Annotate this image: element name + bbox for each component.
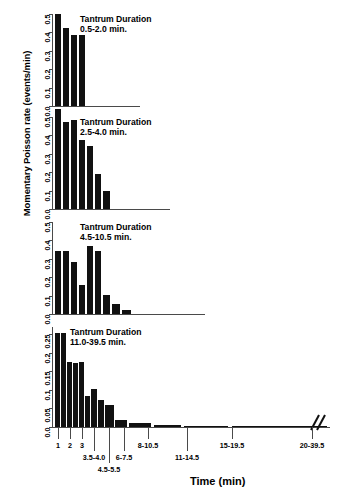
y-tick-label: 0.5 bbox=[43, 118, 52, 165]
y-tick-label: 0.25 bbox=[43, 335, 52, 382]
x-tick bbox=[232, 427, 233, 439]
x-axis-line bbox=[52, 106, 140, 107]
x-tick bbox=[94, 427, 95, 451]
bar bbox=[71, 262, 77, 314]
bar bbox=[103, 191, 110, 209]
bar bbox=[105, 405, 114, 427]
x-tick bbox=[312, 427, 313, 439]
bar bbox=[79, 35, 85, 106]
bar bbox=[115, 420, 127, 427]
bar bbox=[122, 310, 131, 314]
x-tick bbox=[187, 427, 188, 451]
x-tick-label: 4.5-5.5 bbox=[83, 465, 135, 474]
y-tick-label: 0.5 bbox=[43, 15, 52, 62]
x-tick bbox=[70, 427, 71, 439]
x-tick-label: 8-10.5 bbox=[122, 441, 174, 450]
panel-tantrum-11-0-39-5: 0.00.050.10.150.20.25Tantrum Duration 11… bbox=[0, 327, 337, 429]
x-tick-label: 20-39.5 bbox=[286, 441, 337, 450]
bar bbox=[112, 304, 120, 314]
bar bbox=[55, 109, 61, 209]
panel-tantrum-4-5-10-5: 0.00.10.20.30.40.5Tantrum Duration 4.5-1… bbox=[0, 222, 337, 316]
bar bbox=[63, 122, 69, 209]
x-tick bbox=[82, 427, 83, 439]
bar bbox=[63, 251, 69, 314]
panel-title: Tantrum Duration 2.5-4.0 min. bbox=[80, 117, 151, 137]
y-axis-line bbox=[52, 327, 53, 427]
x-tick-label: 6-7.5 bbox=[98, 453, 150, 462]
bar bbox=[67, 362, 72, 427]
x-axis-line bbox=[52, 314, 205, 315]
x-tick bbox=[58, 427, 59, 439]
bar bbox=[91, 389, 97, 427]
bar bbox=[55, 251, 61, 314]
y-axis-line bbox=[52, 117, 53, 209]
bar bbox=[79, 285, 85, 314]
x-tick-label: 11-14.5 bbox=[161, 453, 213, 462]
bar bbox=[87, 246, 93, 314]
y-axis-line bbox=[52, 222, 53, 314]
x-tick-label: 15-19.5 bbox=[206, 441, 258, 450]
panel-title: Tantrum Duration 0.5-2.0 min. bbox=[80, 14, 151, 34]
bar bbox=[95, 174, 101, 209]
x-axis-area: 1233.5-4.04.5-5.56-7.58-10.511-14.515-19… bbox=[0, 427, 337, 492]
panel-tantrum-0-5-2-0: 0.00.10.20.30.40.5Tantrum Duration 0.5-2… bbox=[0, 14, 337, 108]
bar bbox=[85, 396, 90, 427]
panel-tantrum-2-5-4-0: 0.00.10.20.30.40.5Tantrum Duration 2.5-4… bbox=[0, 117, 337, 211]
bar bbox=[79, 140, 85, 209]
bar bbox=[98, 400, 104, 427]
y-axis-line bbox=[52, 14, 53, 106]
bar bbox=[55, 14, 61, 106]
panel-title: Tantrum Duration 4.5-10.5 min. bbox=[80, 222, 151, 242]
bar bbox=[87, 146, 93, 209]
bar bbox=[61, 333, 66, 427]
panel-title: Tantrum Duration 11.0-39.5 min. bbox=[70, 327, 141, 347]
bar bbox=[79, 362, 84, 427]
bar bbox=[71, 35, 77, 106]
bar bbox=[55, 333, 60, 427]
bar bbox=[73, 363, 78, 427]
x-tick-label: 3 bbox=[56, 441, 108, 450]
figure: Momentary Poisson rate (events/min) 0.00… bbox=[0, 0, 337, 492]
x-axis-title: Time (min) bbox=[190, 475, 245, 487]
x-axis-line bbox=[52, 209, 170, 210]
y-tick-label: 0.5 bbox=[43, 223, 52, 270]
bar bbox=[71, 120, 77, 209]
bar bbox=[103, 295, 110, 314]
bar bbox=[95, 251, 101, 314]
x-tick bbox=[148, 427, 149, 439]
bar bbox=[63, 28, 69, 106]
